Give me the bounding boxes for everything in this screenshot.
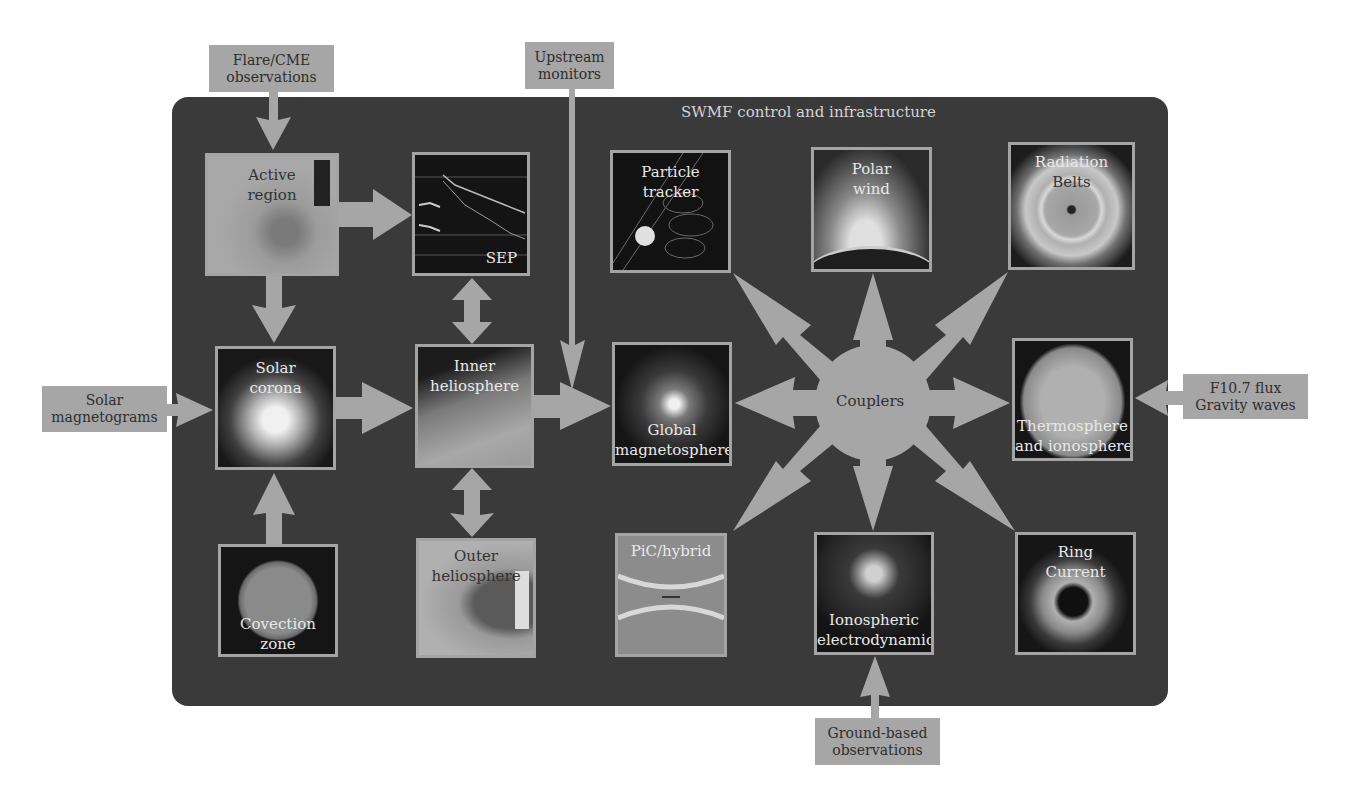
module-label: heliosphere xyxy=(419,567,533,585)
module-convection-zone: Covection zone xyxy=(218,544,338,657)
input-label-line: monitors xyxy=(525,66,614,83)
module-solar-corona: Solar corona xyxy=(215,346,336,470)
input-flare-cme-observations: Flare/CME observations xyxy=(209,45,334,92)
module-label: region xyxy=(208,186,336,204)
module-pic-hybrid: PiC/hybrid xyxy=(615,533,727,657)
input-ground-based-observations: Ground-based observations xyxy=(815,718,940,765)
module-polar-wind: Polar wind xyxy=(811,147,932,272)
module-label: Covection xyxy=(221,615,335,633)
input-label-line: Ground-based xyxy=(815,725,940,742)
arrow-corona-to-inner xyxy=(336,382,413,434)
module-sep: SEP xyxy=(412,152,530,276)
module-label: Ring xyxy=(1018,543,1133,561)
module-label: corona xyxy=(218,379,333,397)
input-label-line: Gravity waves xyxy=(1183,397,1308,414)
arrow-convection-to-corona xyxy=(253,473,295,544)
module-label: PiC/hybrid xyxy=(618,542,724,560)
module-label: Outer xyxy=(419,547,533,565)
input-label-line: Solar xyxy=(42,392,167,409)
input-solar-magnetograms: Solar magnetograms xyxy=(42,386,167,432)
module-label: Particle xyxy=(613,163,728,181)
input-f107-gravity-waves: F10.7 flux Gravity waves xyxy=(1183,374,1308,419)
module-label: Polar xyxy=(814,160,929,178)
module-global-magnetosphere: Global magnetosphere xyxy=(612,342,732,466)
module-radiation-belts: Radiation Belts xyxy=(1008,142,1135,270)
module-ring-current: Ring Current xyxy=(1015,532,1136,655)
module-label: and ionosphere xyxy=(1015,437,1130,455)
module-label: Active xyxy=(208,166,336,184)
module-ionospheric-electrodynamics: Ionospheric electrodynamics xyxy=(814,532,934,655)
arrow-sep-inner xyxy=(452,278,492,344)
module-label: Thermosphere xyxy=(1015,417,1130,435)
module-label: Ionospheric xyxy=(817,611,931,629)
module-label: Belts xyxy=(1011,173,1132,191)
module-label: tracker xyxy=(613,183,728,201)
module-label: wind xyxy=(814,180,929,198)
module-label: Inner xyxy=(418,357,531,375)
input-label-line: magnetograms xyxy=(42,409,167,426)
couplers-label: Couplers xyxy=(836,392,904,410)
module-label: electrodynamics xyxy=(817,631,931,649)
input-upstream-monitors: Upstream monitors xyxy=(525,42,614,89)
input-label-line: Flare/CME xyxy=(209,52,334,69)
module-particle-tracker: Particle tracker xyxy=(610,150,731,273)
module-active-region: Active region xyxy=(205,153,339,276)
module-label: Radiation xyxy=(1011,153,1132,171)
module-label: Current xyxy=(1018,563,1133,581)
arrow-inner-outer xyxy=(450,468,494,537)
arrow-ground-to-ionospheric xyxy=(860,656,890,718)
arrow-active-to-corona xyxy=(252,276,296,343)
arrow-f107-to-thermosphere xyxy=(1135,380,1183,416)
module-outer-heliosphere: Outer heliosphere xyxy=(416,538,536,658)
module-label: heliosphere xyxy=(418,377,531,395)
arrow-upstream-to-magnetosphere xyxy=(560,88,585,390)
module-label: SEP xyxy=(486,249,517,267)
arrow-flare-to-active-region xyxy=(256,90,291,150)
input-label-line: observations xyxy=(815,742,940,759)
arrow-inner-to-magnetosphere xyxy=(534,382,611,430)
module-label: Global xyxy=(615,421,729,439)
module-label: Solar xyxy=(218,359,333,377)
arrow-active-to-sep xyxy=(339,189,412,240)
arrow-magnetograms-to-corona xyxy=(167,393,213,427)
module-label: magnetosphere xyxy=(615,441,729,459)
module-inner-heliosphere: Inner heliosphere xyxy=(415,344,534,468)
input-label-line: F10.7 flux xyxy=(1183,380,1308,397)
module-label: zone xyxy=(221,635,335,653)
input-label-line: observations xyxy=(209,69,334,86)
module-thermosphere-ionosphere: Thermosphere and ionosphere xyxy=(1012,338,1133,461)
input-label-line: Upstream xyxy=(525,49,614,66)
